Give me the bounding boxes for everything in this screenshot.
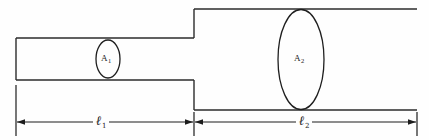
length-label-1: ℓ1	[93, 114, 109, 127]
length-label-1-wrap: ℓ1	[93, 113, 109, 128]
area-label-large-symbol: A	[294, 53, 301, 63]
area-label-small: A1	[101, 54, 111, 63]
length-label-2-symbol: ℓ	[299, 113, 305, 128]
arrowhead-right-length-1	[185, 119, 193, 124]
arrowhead-left-length-1	[17, 119, 25, 124]
length-label-2-wrap: ℓ2	[296, 113, 312, 128]
arrowhead-left-length-2	[195, 119, 203, 124]
length-label-1-subscript: 1	[102, 122, 106, 130]
area-label-small-subscript: 1	[108, 57, 111, 64]
length-label-2-subscript: 2	[305, 122, 309, 130]
length-label-1-symbol: ℓ	[96, 113, 102, 128]
diagram-canvas	[0, 0, 429, 140]
pipe-outline-group	[16, 9, 417, 110]
area-label-large: A2	[294, 54, 304, 63]
area-label-large-subscript: 2	[301, 57, 304, 64]
length-label-2: ℓ2	[296, 114, 312, 127]
arrowhead-right-length-2	[408, 119, 416, 124]
pipe-diagram: A1 A2 ℓ1 ℓ2	[0, 0, 429, 140]
area-label-small-symbol: A	[101, 53, 108, 63]
